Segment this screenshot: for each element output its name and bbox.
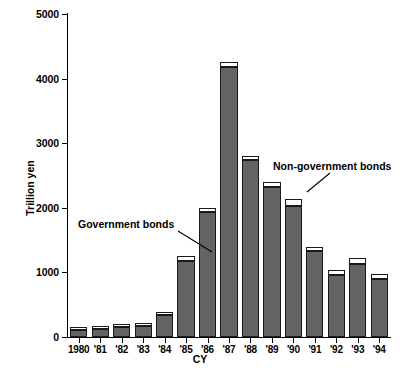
bond-issuance-bar-chart: Trillion yen 010002000300040005000 1980'… <box>0 0 400 375</box>
annotation-leader-line-non-government-bonds <box>0 0 400 375</box>
